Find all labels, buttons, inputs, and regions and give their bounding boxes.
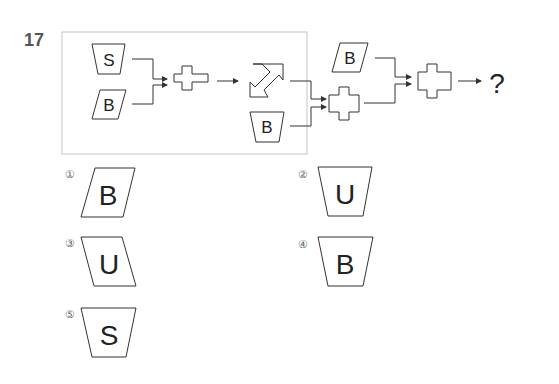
svg-text:S: S xyxy=(100,320,119,351)
svg-text:B: B xyxy=(99,180,118,211)
input-shape-b-3: B xyxy=(332,43,368,72)
cross-operator-2 xyxy=(329,87,359,120)
choice-4[interactable]: B xyxy=(318,237,373,286)
svg-text:U: U xyxy=(335,179,355,210)
cross-operator-3 xyxy=(418,64,451,98)
choice-5-label: ⑤ xyxy=(65,308,75,320)
input-shape-s: S xyxy=(92,44,125,74)
choice-2[interactable]: U xyxy=(318,167,372,216)
choice-5[interactable]: S xyxy=(81,308,136,357)
input-shape-b-2: B xyxy=(250,112,284,142)
choice-1[interactable]: B xyxy=(81,168,135,217)
choice-4-label: ④ xyxy=(298,238,308,250)
svg-text:S: S xyxy=(103,51,114,70)
svg-text:U: U xyxy=(99,249,119,280)
diagonal-arrow-operator xyxy=(250,64,283,97)
choice-3[interactable]: U xyxy=(81,237,136,286)
choice-3-label: ③ xyxy=(65,237,75,249)
puzzle-diagram: S B B B ? ① B ② xyxy=(0,0,559,384)
choice-1-label: ① xyxy=(65,168,75,180)
unknown-result: ? xyxy=(489,68,505,99)
svg-text:B: B xyxy=(261,118,272,137)
svg-text:B: B xyxy=(336,249,355,280)
cross-operator-1 xyxy=(174,66,208,90)
svg-text:B: B xyxy=(344,49,355,68)
choice-2-label: ② xyxy=(298,168,308,180)
input-shape-b: B xyxy=(92,90,126,119)
svg-text:B: B xyxy=(103,96,114,115)
